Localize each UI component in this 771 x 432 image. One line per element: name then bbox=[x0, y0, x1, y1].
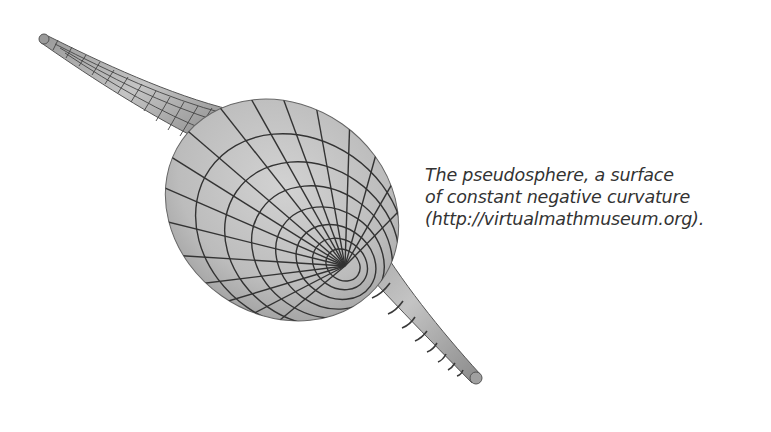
caption-line-3: (http://virtualmathmuseum.org). bbox=[425, 208, 765, 230]
figure-caption: The pseudosphere, a surface of constant … bbox=[425, 164, 765, 230]
caption-line-1: The pseudosphere, a surface bbox=[425, 164, 765, 186]
caption-line-2: of constant negative curvature bbox=[425, 186, 765, 208]
